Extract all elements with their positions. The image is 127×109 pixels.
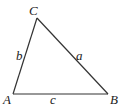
side-label-b: b [16, 48, 23, 63]
side-label-c: c [50, 92, 56, 107]
side-a [37, 18, 108, 94]
triangle-diagram: A B C a b c [0, 0, 127, 109]
vertex-label-a-upper: A [2, 92, 11, 107]
vertex-label-c-upper: C [29, 3, 38, 18]
vertex-label-b-upper: B [110, 92, 118, 107]
side-label-a: a [76, 48, 83, 63]
